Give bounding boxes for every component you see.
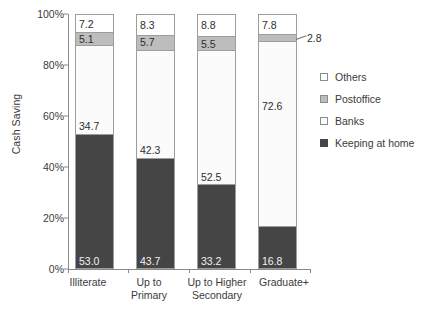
legend-label: Others [335,71,367,83]
legend-swatch-banks-icon [320,117,328,125]
value-label: 43.7 [140,256,160,267]
bar-graduate-plus[interactable]: 16.8 72.6 2.8 7.8 [258,14,297,269]
y-axis-title: Cash Saving [10,79,22,169]
x-tick-mark-2 [189,269,190,273]
segment-banks-illiterate[interactable]: 34.7 [75,45,114,134]
bar-up-to-primary[interactable]: 43.7 42.3 5.7 8.3 [136,14,175,269]
segment-banks-graduate-plus[interactable]: 72.6 [258,41,297,226]
x-category-label-up-to-primary: Up to Primary [119,276,179,302]
segment-keeping-at-home-up-to-primary[interactable]: 43.7 [136,158,175,269]
x-tick-mark-1 [128,269,129,273]
bar-up-to-higher-secondary[interactable]: 33.2 52.5 5.5 8.8 [197,14,236,269]
bar-illiterate[interactable]: 53.0 34.7 5.1 7.2 [75,14,114,269]
x-tick-mark-end [310,269,311,273]
legend-label: Banks [335,115,364,127]
x-tick-mark-3 [250,269,251,273]
segment-postoffice-up-to-primary[interactable]: 5.7 [136,35,175,50]
legend-item-keeping-at-home[interactable]: Keeping at home [320,134,430,152]
value-label: 7.8 [262,20,277,31]
segment-banks-up-to-higher-secondary[interactable]: 52.5 [197,50,236,184]
x-category-label-graduate-plus: Graduate+ [248,276,320,289]
legend-swatch-others-icon [320,73,328,81]
value-label: 52.5 [201,172,221,183]
y-tick-label-20: 20% [22,212,64,224]
legend-item-others[interactable]: Others [320,68,430,86]
x-category-label-illiterate: Illiterate [58,276,118,289]
value-label: 42.3 [140,145,160,156]
callout-leader-line [296,35,307,40]
plot-area: 53.0 34.7 5.1 7.2 43.7 42.3 5.7 [68,14,311,269]
legend-label: Postoffice [335,93,381,105]
segment-keeping-at-home-graduate-plus[interactable]: 16.8 [258,226,297,269]
y-tick-label-80: 80% [22,59,64,71]
y-tick-label-60: 60% [22,110,64,122]
chart-legend: Others Postoffice Banks Keeping at home [320,68,430,156]
y-tick-label-100: 100% [22,8,64,20]
segment-others-up-to-higher-secondary[interactable]: 8.8 [197,14,236,36]
y-tick-label-40: 40% [22,161,64,173]
callout-label-postoffice-graduate-plus: 2.8 [307,32,322,44]
value-label: 33.2 [201,256,221,267]
legend-swatch-keeping-at-home-icon [320,139,328,147]
value-label: 16.8 [262,256,282,267]
legend-item-postoffice[interactable]: Postoffice [320,90,430,108]
value-label: 7.2 [79,19,94,30]
segment-others-illiterate[interactable]: 7.2 [75,14,114,32]
segment-keeping-at-home-up-to-higher-secondary[interactable]: 33.2 [197,184,236,269]
legend-swatch-postoffice-icon [320,95,328,103]
segment-others-graduate-plus[interactable]: 7.8 [258,14,297,34]
legend-item-banks[interactable]: Banks [320,112,430,130]
segment-banks-up-to-primary[interactable]: 42.3 [136,50,175,158]
x-tick-mark-start [68,269,69,273]
segment-postoffice-illiterate[interactable]: 5.1 [75,32,114,45]
segment-others-up-to-primary[interactable]: 8.3 [136,14,175,35]
value-label: 8.3 [140,20,155,31]
value-label: 53.0 [79,256,99,267]
value-label: 34.7 [79,121,99,132]
y-tick-label-0: 0% [22,263,64,275]
value-label: 5.5 [201,39,216,50]
segment-keeping-at-home-illiterate[interactable]: 53.0 [75,134,114,269]
value-label: 8.8 [201,20,216,31]
value-label: 5.7 [140,37,155,48]
stacked-bar-chart: Cash Saving 100% 80% 60% 40% 20% 0% 53.0… [0,0,431,312]
x-category-label-up-to-higher-secondary: Up to Higher Secondary [176,276,258,302]
segment-postoffice-graduate-plus[interactable]: 2.8 [258,34,297,41]
segment-postoffice-up-to-higher-secondary[interactable]: 5.5 [197,36,236,50]
legend-label: Keeping at home [335,137,414,149]
value-label: 72.6 [262,101,282,112]
value-label: 5.1 [79,34,94,45]
